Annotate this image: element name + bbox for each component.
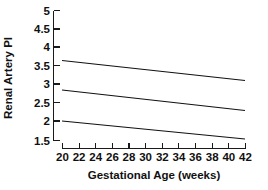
y-tick-label-4-5: 4.5 bbox=[34, 23, 51, 35]
renal-artery-pi-line-chart: 5 4.5 4 3.5 3 2.5 2 1.5 Renal Artery PI bbox=[0, 0, 268, 190]
y-tick-label-3: 3 bbox=[44, 78, 50, 90]
x-tick-label-24: 24 bbox=[89, 151, 102, 163]
x-tick-label-36: 36 bbox=[189, 151, 202, 163]
x-tick-label-30: 30 bbox=[139, 151, 152, 163]
x-axis-title: Gestational Age (weeks) bbox=[88, 169, 221, 181]
y-axis-ticks bbox=[54, 11, 60, 141]
y-tick-label-4: 4 bbox=[44, 41, 51, 53]
x-tick-label-22: 22 bbox=[73, 151, 86, 163]
x-tick-label-34: 34 bbox=[173, 151, 186, 163]
x-axis-ticks bbox=[63, 143, 246, 149]
y-tick-label-2-5: 2.5 bbox=[34, 97, 51, 109]
x-tick-label-40: 40 bbox=[222, 151, 235, 163]
x-tick-label-26: 26 bbox=[106, 151, 119, 163]
x-tick-label-32: 32 bbox=[156, 151, 169, 163]
upper-reference-line bbox=[62, 61, 245, 81]
chart-figure: 5 4.5 4 3.5 3 2.5 2 1.5 Renal Artery PI bbox=[0, 0, 268, 190]
x-tick-label-28: 28 bbox=[123, 151, 136, 163]
x-tick-label-20: 20 bbox=[56, 151, 69, 163]
data-series-group bbox=[62, 61, 245, 140]
median-reference-line bbox=[62, 90, 245, 111]
y-axis-title: Renal Artery PI bbox=[2, 37, 14, 119]
x-tick-label-38: 38 bbox=[206, 151, 219, 163]
y-tick-label-2: 2 bbox=[44, 115, 50, 127]
x-tick-label-42: 42 bbox=[239, 151, 252, 163]
y-tick-label-1-5: 1.5 bbox=[34, 135, 51, 147]
lower-reference-line bbox=[62, 121, 245, 139]
y-tick-label-3-5: 3.5 bbox=[34, 60, 51, 72]
y-tick-label-5: 5 bbox=[44, 5, 51, 17]
